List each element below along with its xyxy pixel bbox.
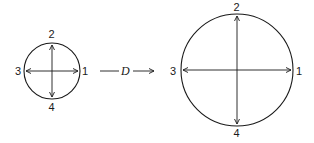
diagram-canvas: 1 2 3 4 D 1 2 3 4 xyxy=(0,0,314,143)
small-label-1: 1 xyxy=(82,65,88,77)
transform-label-d: D xyxy=(120,64,130,78)
large-label-1: 1 xyxy=(296,65,302,77)
small-label-2: 2 xyxy=(49,28,55,40)
large-label-3: 3 xyxy=(170,65,176,77)
transform-arrow-group: D xyxy=(100,64,154,78)
small-label-4: 4 xyxy=(49,101,55,113)
large-label-4: 4 xyxy=(234,127,240,139)
small-label-3: 3 xyxy=(15,65,21,77)
small-circle-group: 1 2 3 4 xyxy=(15,28,88,113)
large-label-2: 2 xyxy=(234,1,240,13)
large-circle-group: 1 2 3 4 xyxy=(170,1,302,139)
